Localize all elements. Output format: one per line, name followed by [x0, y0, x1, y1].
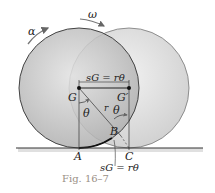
sg-bottom-label: sG = rθ	[100, 163, 139, 173]
b-label: B	[110, 126, 118, 137]
point-g-prime	[127, 86, 131, 90]
ground-shadow	[18, 148, 203, 152]
c-label: C	[125, 151, 133, 162]
g-label: G	[68, 92, 77, 103]
rolling-disk-diagram: α ω sG = rθ G G′ θ r θ B A C sG = rθ Fig…	[0, 0, 215, 193]
theta-right-label: θ	[113, 105, 120, 116]
alpha-label: α	[28, 26, 35, 37]
g-prime-label: G′	[117, 92, 128, 103]
figure-caption: Fig. 16–7	[62, 174, 109, 184]
point-g	[77, 86, 81, 90]
theta-left-label: θ	[83, 108, 90, 119]
a-label: A	[74, 151, 82, 162]
r-label: r	[104, 104, 108, 113]
omega-label: ω	[88, 9, 97, 20]
sg-top-label: sG = rθ	[86, 73, 125, 83]
